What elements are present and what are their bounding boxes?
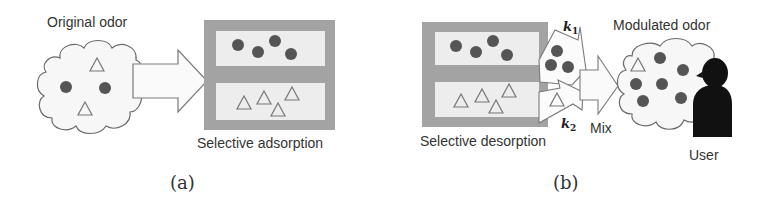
circle-molecule	[630, 78, 642, 90]
circle-molecule	[450, 40, 462, 52]
caption-a: (a)	[170, 172, 195, 193]
modulated-odor-label: Modulated odor	[613, 17, 711, 33]
circle-molecule	[677, 64, 689, 76]
circle-molecule	[252, 46, 264, 58]
circle-molecule	[656, 78, 668, 90]
circle-molecule	[637, 95, 649, 107]
mix-label: Mix	[590, 120, 612, 136]
user-label: User	[689, 147, 719, 163]
circle-molecule	[562, 61, 574, 73]
circle-molecule	[470, 46, 482, 58]
caption-b: (b)	[553, 172, 579, 193]
circle-molecule	[545, 59, 557, 71]
flow-arrow	[133, 50, 207, 112]
circle-molecule	[501, 49, 513, 61]
chamber-bottom	[216, 83, 325, 120]
panel-b: k1 k2 Mix Modulated odor User Selective …	[420, 17, 732, 193]
odor-modulation-diagram: Original odor Selective adsorption (a)	[0, 0, 763, 207]
original-odor-label: Original odor	[47, 14, 127, 30]
panel-a: Original odor Selective adsorption (a)	[37, 14, 335, 193]
k2-label: k2	[561, 116, 576, 133]
selective-adsorption-label: Selective adsorption	[197, 135, 323, 151]
k1-label: k1	[563, 19, 578, 36]
circle-molecule	[675, 92, 687, 104]
circle-molecule	[487, 35, 499, 47]
circle-molecule	[60, 81, 72, 93]
original-odor-cloud	[37, 41, 143, 134]
circle-molecule	[654, 52, 666, 64]
circle-molecule	[232, 39, 244, 51]
circle-molecule	[99, 82, 111, 94]
selective-desorption-label: Selective desorption	[420, 133, 546, 149]
circle-molecule	[285, 48, 297, 60]
chamber-top	[216, 31, 325, 66]
circle-molecule	[269, 35, 281, 47]
circle-molecule	[551, 45, 563, 57]
